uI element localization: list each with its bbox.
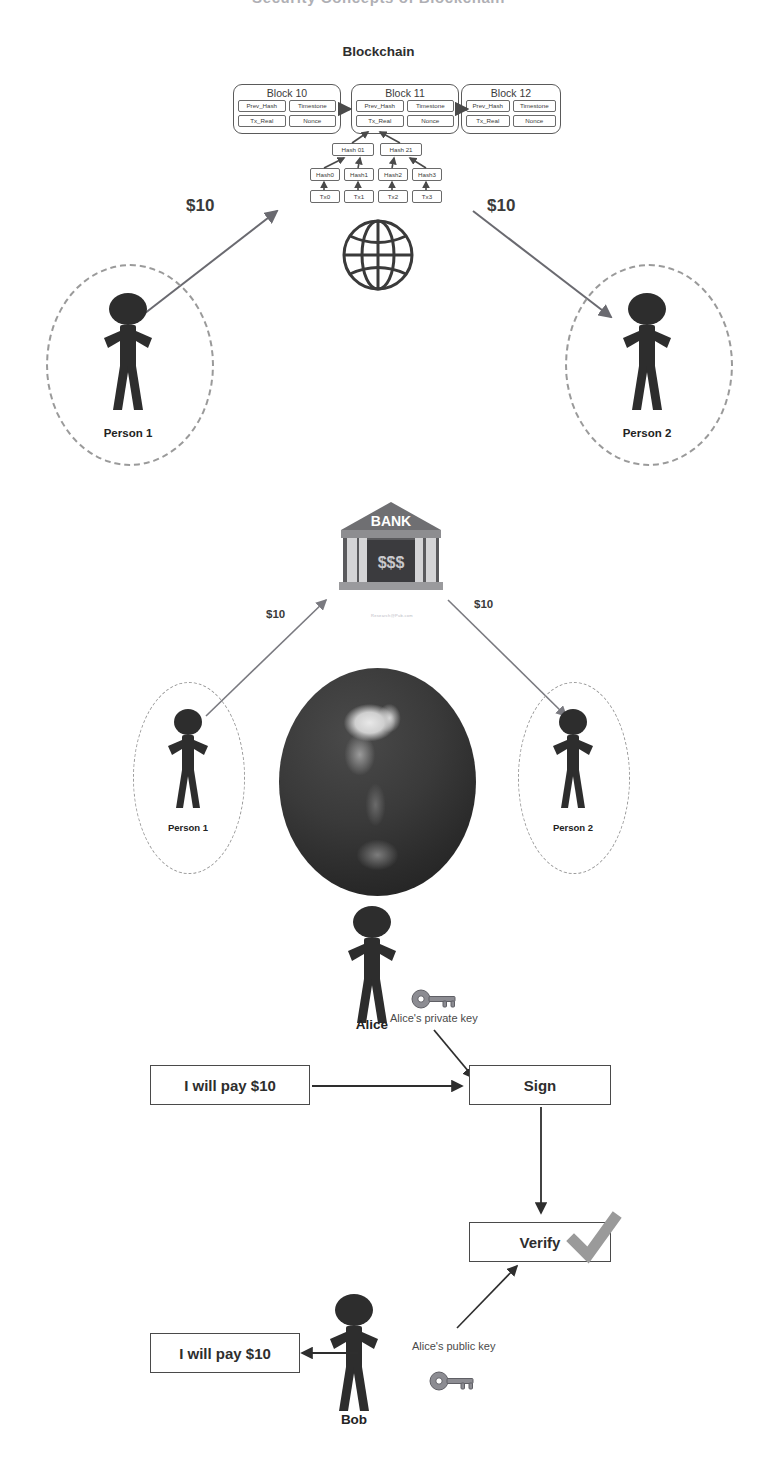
alice-private-key-label: Alice's private key <box>390 1012 478 1024</box>
watermark-text: Research@Pub.com <box>352 613 432 618</box>
checkmark-icon <box>568 1213 620 1263</box>
block-12-tx-root: Tx_Real <box>466 115 510 127</box>
block-12: Block 12 Prev_Hash Timestone Tx_Real Non… <box>461 84 561 134</box>
earth-photo-icon <box>279 668 476 896</box>
block-10-prev-hash: Prev_Hash <box>238 100 286 112</box>
block-12-nonce: Nonce <box>513 115 557 127</box>
block-10-timestamp: Timestone <box>289 100 337 112</box>
merkle-tree: Hash 01 Hash 21 Hash0 Hash1 Hash2 Hash3 … <box>300 140 470 206</box>
message-to-sign-arrow <box>310 1078 472 1094</box>
svg-text:BANK: BANK <box>371 513 411 529</box>
block-10-tx-root: Tx_Real <box>238 115 286 127</box>
bob-to-message-arrow <box>296 1345 362 1361</box>
key-icon-public <box>428 1370 476 1392</box>
key-icon-private <box>410 988 458 1010</box>
sign-box: Sign <box>469 1065 611 1105</box>
globe-wireframe-icon <box>341 218 415 292</box>
bank-building-icon: BANK $$$ <box>337 500 445 592</box>
svg-text:$$$: $$$ <box>378 554 405 571</box>
block-chain-connectors <box>330 100 470 120</box>
person-2-figure-top <box>615 292 679 414</box>
block-12-prev-hash: Prev_Hash <box>466 100 510 112</box>
block-12-title: Block 12 <box>462 85 560 99</box>
merkle-edges <box>300 140 470 206</box>
block-10: Block 10 Prev_Hash Timestone Tx_Real Non… <box>233 84 341 134</box>
document-title: Security Concepts of Blockchain <box>0 0 757 6</box>
block-10-title: Block 10 <box>234 85 340 99</box>
sign-to-verify-arrow <box>534 1105 550 1223</box>
blockchain-section-heading: Blockchain <box>0 44 757 59</box>
bob-label: Bob <box>322 1412 386 1427</box>
person-2-figure-bank <box>548 708 598 812</box>
public-key-to-verify-arrow <box>455 1258 529 1334</box>
block-11-title: Block 11 <box>352 85 458 99</box>
message-box-bottom: I will pay $10 <box>150 1333 300 1373</box>
message-box-top: I will pay $10 <box>150 1065 310 1105</box>
person-1-figure-bank <box>163 708 213 812</box>
block-12-timestamp: Timestone <box>513 100 557 112</box>
person-2-label-top: Person 2 <box>565 427 729 439</box>
person-1-figure-top <box>96 292 160 414</box>
alice-public-key-label: Alice's public key <box>412 1340 495 1352</box>
block-10-nonce: Nonce <box>289 115 337 127</box>
person-2-label-bank: Person 2 <box>518 822 628 833</box>
alice-figure <box>340 905 404 1027</box>
person-1-label-bank: Person 1 <box>133 822 243 833</box>
person-1-label-top: Person 1 <box>46 427 210 439</box>
